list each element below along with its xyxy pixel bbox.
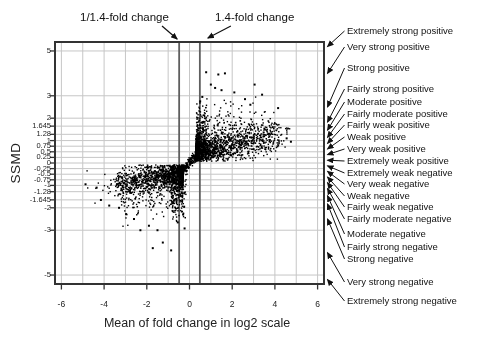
category-label: Weak negative [347, 191, 410, 201]
fold-change-right-annotation: 1.4-fold change [215, 11, 294, 23]
category-label: Weak positive [347, 132, 406, 142]
x-axis-title: Mean of fold change in log2 scale [104, 316, 290, 330]
category-label: Very weak negative [347, 179, 429, 189]
category-label: Fairly moderate positive [347, 109, 448, 119]
category-label: Extremely weak positive [347, 156, 449, 166]
category-label: Fairly strong negative [347, 242, 438, 252]
category-label: Fairly weak negative [347, 202, 434, 212]
y-tick-label: -3 [0, 226, 51, 234]
category-label: Fairly weak positive [347, 120, 430, 130]
x-tick-label: 2 [230, 299, 235, 309]
category-pointer-arrow [328, 137, 345, 149]
category-pointer-arrow [328, 280, 345, 301]
category-label: Very strong positive [347, 42, 430, 52]
ssmd-fold-change-figure: SSMD Mean of fold change in log2 scale 1… [0, 0, 481, 341]
category-pointer-arrow [328, 171, 345, 184]
category-pointer-arrow [328, 68, 345, 107]
category-label: Very weak positive [347, 144, 426, 154]
category-pointer-arrow [328, 253, 345, 282]
category-pointer-arrow [328, 166, 345, 173]
fold-change-right-arrow [208, 26, 231, 38]
category-pointer-arrow [328, 160, 345, 161]
category-label: Strong negative [347, 254, 414, 264]
category-pointer-arrow [328, 149, 345, 155]
y-tick-label: -2 [0, 204, 51, 212]
category-label: Strong positive [347, 63, 410, 73]
category-pointer-arrow [328, 31, 345, 46]
category-label: Moderate negative [347, 229, 426, 239]
x-tick-label: 4 [273, 299, 278, 309]
x-tick-label: -2 [143, 299, 151, 309]
y-tick-label: 3 [0, 92, 51, 100]
category-label: Extremely strong negative [347, 296, 457, 306]
x-tick-label: -6 [58, 299, 66, 309]
fold-change-left-arrow [162, 26, 177, 39]
category-label: Extremely weak negative [347, 168, 453, 178]
y-tick-label: 5 [0, 47, 51, 55]
x-tick-label: 0 [187, 299, 192, 309]
fold-change-left-annotation: 1/1.4-fold change [80, 11, 169, 23]
x-tick-label: -4 [100, 299, 108, 309]
x-tick-label: 6 [315, 299, 320, 309]
category-label: Very strong negative [347, 277, 434, 287]
category-label: Extremely strong positive [347, 26, 453, 36]
category-pointer-arrow [328, 47, 345, 73]
category-label: Fairly moderate negative [347, 214, 452, 224]
category-label: Fairly strong positive [347, 84, 434, 94]
category-label: Moderate positive [347, 97, 422, 107]
plot-border [55, 42, 324, 284]
y-tick-label: -5 [0, 271, 51, 279]
